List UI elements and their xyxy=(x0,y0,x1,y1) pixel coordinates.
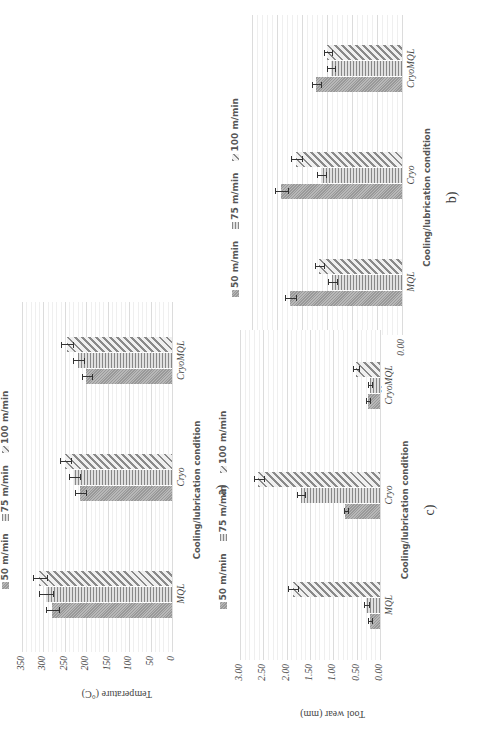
bar-cryomql-100 xyxy=(327,45,402,60)
bar-mql-75 xyxy=(46,587,172,602)
y-tick-label: 300 xyxy=(37,656,47,686)
legend-item: 100 m/min xyxy=(0,391,10,453)
error-bar xyxy=(39,591,54,597)
bar-mql-100 xyxy=(293,582,380,597)
error-bar xyxy=(33,575,48,581)
gridline xyxy=(380,330,381,660)
gridline xyxy=(259,330,260,660)
x-category-label: MQL xyxy=(176,564,186,624)
legend-item: 100 m/min xyxy=(230,98,240,160)
x-category-label: CryoMQL xyxy=(406,38,416,98)
y-tick-label: 3.00 xyxy=(234,664,244,694)
legend-swatch-icon xyxy=(2,514,9,521)
legend: 50 m/min75 m/min100 m/min xyxy=(218,300,228,720)
x-axis-title: Cooling/lubrication condition xyxy=(400,300,410,720)
y-tick-label: 150 xyxy=(102,656,112,686)
y-tick-label: 250 xyxy=(59,656,69,686)
gridline xyxy=(43,302,44,652)
legend-swatch-icon xyxy=(2,582,9,589)
error-bar xyxy=(344,509,350,515)
gridline xyxy=(240,330,241,660)
gridline xyxy=(302,15,303,335)
error-bar xyxy=(288,587,299,593)
legend-item: 75 m/min xyxy=(230,173,240,229)
gridline xyxy=(282,15,283,335)
gridline xyxy=(268,330,269,660)
bar-mql-100 xyxy=(39,571,172,586)
legend-label: 75 m/min xyxy=(230,173,240,220)
x-category-label: Cryo xyxy=(384,465,394,525)
error-bar xyxy=(73,358,85,364)
error-bar xyxy=(275,189,289,195)
y-tick-label: 0.50 xyxy=(351,664,361,694)
error-bar xyxy=(297,493,306,499)
legend-swatch-icon xyxy=(2,446,9,453)
y-axis-title: Temperature (°C) xyxy=(82,689,152,700)
plot-area xyxy=(252,15,402,335)
gridline xyxy=(252,15,253,335)
legend-swatch-icon xyxy=(232,290,239,297)
y-tick-label: 100 xyxy=(123,656,133,686)
gridline xyxy=(282,330,283,660)
tool-wear-chart: 50 m/min75 m/min100 m/min0.000.501.001.5… xyxy=(218,300,448,720)
legend-item: 50 m/min xyxy=(218,553,228,609)
bar-cryo-50 xyxy=(345,504,380,519)
gridline xyxy=(263,330,264,660)
legend-item: 50 m/min xyxy=(0,533,10,589)
bar-cryo-50 xyxy=(281,184,402,199)
error-bar xyxy=(328,279,338,285)
y-tick-label: 1.50 xyxy=(304,664,314,694)
y-tick-label: 350 xyxy=(16,656,26,686)
bar-cryomql-75 xyxy=(331,61,403,76)
legend-label: 75 m/min xyxy=(0,465,10,512)
gridline xyxy=(267,15,268,335)
legend-item: 75 m/min xyxy=(218,485,228,541)
gridline xyxy=(35,302,36,652)
gridline xyxy=(273,330,274,660)
error-bar xyxy=(315,263,325,269)
gridline xyxy=(249,330,250,660)
error-bar xyxy=(75,491,87,497)
error-bar xyxy=(368,383,373,389)
bar-cryo-100 xyxy=(296,152,402,167)
gridline xyxy=(402,15,403,335)
error-bar xyxy=(312,82,322,88)
plot-area xyxy=(22,302,172,652)
gridline xyxy=(292,15,293,335)
legend-label: 100 m/min xyxy=(230,98,240,151)
chart-panel-c: 50 m/min75 m/min100 m/min0.000.501.001.5… xyxy=(218,300,448,720)
plot-area xyxy=(240,330,380,660)
legend-swatch-icon xyxy=(232,222,239,229)
error-bar xyxy=(69,475,81,481)
gridline xyxy=(22,302,23,652)
legend-item: 50 m/min xyxy=(230,241,240,297)
legend-swatch-icon xyxy=(220,534,227,541)
gridline xyxy=(254,330,255,660)
legend-label: 50 m/min xyxy=(218,553,228,600)
bar-cryo-75 xyxy=(321,168,402,183)
error-bar xyxy=(291,157,303,163)
gridline xyxy=(277,330,278,660)
legend-label: 50 m/min xyxy=(230,241,240,288)
gridline xyxy=(272,15,273,335)
error-bar xyxy=(61,342,73,348)
error-bar xyxy=(353,367,360,373)
bar-cryomql-100 xyxy=(67,337,172,352)
chart-panel-a: 50 m/min75 m/min100 m/min050100150200250… xyxy=(0,280,240,700)
y-tick-label: 1.00 xyxy=(327,664,337,694)
error-bar xyxy=(254,477,265,483)
gridline xyxy=(297,15,298,335)
y-tick-label: 0.00 xyxy=(374,664,384,694)
error-bar xyxy=(324,50,333,56)
bar-cryomql-50 xyxy=(86,369,172,384)
error-bar xyxy=(366,399,371,405)
legend-item: 75 m/min xyxy=(0,465,10,521)
x-category-label: CryoMQL xyxy=(384,355,394,415)
legend-swatch-icon xyxy=(220,466,227,473)
error-bar xyxy=(317,173,327,179)
temperature-chart: 50 m/min75 m/min100 m/min050100150200250… xyxy=(0,280,240,700)
error-bar xyxy=(60,459,72,465)
legend-label: 100 m/min xyxy=(0,391,10,444)
bar-cryomql-50 xyxy=(316,77,403,92)
bar-cryo-100 xyxy=(65,454,172,469)
